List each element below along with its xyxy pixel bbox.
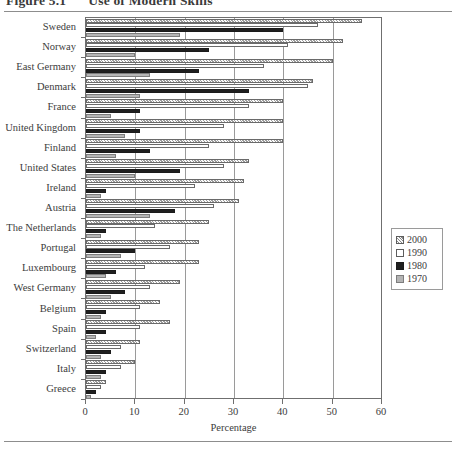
y-axis-tick xyxy=(81,77,85,78)
bar-1970 xyxy=(86,33,180,37)
bar-1970 xyxy=(86,53,135,57)
bar-group xyxy=(86,18,381,38)
y-axis-tick xyxy=(81,319,85,320)
bar-1980 xyxy=(86,169,180,173)
y-axis-label: Finland xyxy=(44,142,76,153)
bar-group xyxy=(86,279,381,299)
bar-1970 xyxy=(86,254,121,258)
y-axis-label: Belgium xyxy=(40,303,76,314)
y-axis-label: Italy xyxy=(57,363,76,374)
bar-1990 xyxy=(86,385,101,389)
bar-2000 xyxy=(86,280,180,284)
bar-1970 xyxy=(86,194,101,198)
legend-swatch-2000 xyxy=(396,236,404,244)
bar-1970 xyxy=(86,214,150,218)
bar-1970 xyxy=(86,375,101,379)
bar-1980 xyxy=(86,89,249,93)
y-axis-label: Ireland xyxy=(46,182,76,193)
x-axis-tick-10 xyxy=(134,399,135,404)
bar-group xyxy=(86,320,381,340)
bar-1990 xyxy=(86,64,264,68)
y-axis-label: France xyxy=(47,101,76,112)
bar-1990 xyxy=(86,345,121,349)
bar-1970 xyxy=(86,174,135,178)
bar-2000 xyxy=(86,99,283,103)
bar-2000 xyxy=(86,340,140,344)
x-axis-tick-label: 0 xyxy=(65,406,105,417)
x-axis-ticks xyxy=(85,399,382,405)
bar-1980 xyxy=(86,390,96,394)
bar-2000 xyxy=(86,19,362,23)
bar-1980 xyxy=(86,229,106,233)
bar-group xyxy=(86,239,381,259)
y-axis-tick xyxy=(81,158,85,159)
bar-1980 xyxy=(86,69,199,73)
bar-group xyxy=(86,58,381,78)
bar-2000 xyxy=(86,240,199,244)
figure-container: Figure 5.1Use of Modern Skills SwedenNor… xyxy=(0,0,456,451)
bar-1990 xyxy=(86,224,155,228)
bar-1980 xyxy=(86,48,209,52)
bar-1990 xyxy=(86,265,145,269)
bar-1990 xyxy=(86,144,209,148)
bar-group xyxy=(86,38,381,58)
y-axis-tick xyxy=(81,258,85,259)
bar-1970 xyxy=(86,315,101,319)
y-axis-tick xyxy=(81,57,85,58)
bar-1990 xyxy=(86,325,140,329)
bar-1970 xyxy=(86,94,140,98)
bar-2000 xyxy=(86,380,106,384)
bar-group xyxy=(86,78,381,98)
bottom-divider xyxy=(4,441,452,442)
x-axis-tick-label: 50 xyxy=(312,406,352,417)
bar-1980 xyxy=(86,249,135,253)
bar-1990 xyxy=(86,305,140,309)
y-axis-tick xyxy=(81,198,85,199)
bar-2000 xyxy=(86,220,209,224)
y-axis-label: Switzerland xyxy=(26,343,76,354)
bar-1970 xyxy=(86,355,101,359)
bar-1990 xyxy=(86,365,121,369)
bar-2000 xyxy=(86,260,199,264)
y-axis-tick xyxy=(81,178,85,179)
figure-title: Figure 5.1Use of Modern Skills xyxy=(6,0,446,11)
bar-2000 xyxy=(86,300,160,304)
y-axis-label: Luxembourg xyxy=(22,262,76,273)
bar-2000 xyxy=(86,39,343,43)
plot-area xyxy=(85,17,382,399)
chart-legend: 2000199019801970 xyxy=(391,228,443,290)
bar-1990 xyxy=(86,245,170,249)
bar-1980 xyxy=(86,189,106,193)
x-axis-tick-50 xyxy=(332,399,333,404)
x-axis-tick-label: 30 xyxy=(213,406,253,417)
legend-item-1970: 1970 xyxy=(396,272,439,285)
bar-1980 xyxy=(86,370,106,374)
bar-1980 xyxy=(86,270,116,274)
x-axis-tick-30 xyxy=(233,399,234,404)
legend-item-2000: 2000 xyxy=(396,233,439,246)
bar-1970 xyxy=(86,274,106,278)
bar-1970 xyxy=(86,234,101,238)
bar-group xyxy=(86,299,381,319)
bar-group xyxy=(86,259,381,279)
bar-1990 xyxy=(86,204,214,208)
y-axis-label: United Kingdom xyxy=(5,122,76,133)
bar-group xyxy=(86,219,381,239)
bar-2000 xyxy=(86,320,170,324)
x-axis-tick-60 xyxy=(381,399,382,404)
y-axis-label: Spain xyxy=(52,323,76,334)
y-axis-tick xyxy=(81,399,85,400)
bar-2000 xyxy=(86,119,283,123)
bar-1990 xyxy=(86,104,249,108)
bar-1980 xyxy=(86,149,150,153)
bar-group xyxy=(86,360,381,380)
y-axis-label: Denmark xyxy=(37,81,76,92)
bar-1990 xyxy=(86,23,318,27)
bar-1980 xyxy=(86,290,125,294)
x-axis-tick-label: 10 xyxy=(114,406,154,417)
y-axis-label: Greece xyxy=(46,383,76,394)
legend-swatch-1970 xyxy=(396,275,404,283)
x-axis-title: Percentage xyxy=(85,422,382,433)
bar-group xyxy=(86,98,381,118)
x-axis-tick-labels: 0102030405060 xyxy=(0,406,456,420)
